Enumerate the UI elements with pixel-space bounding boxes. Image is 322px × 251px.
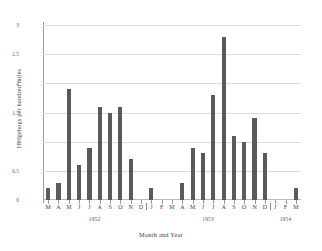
- bar-column[interactable]: [126, 25, 136, 200]
- bar[interactable]: [149, 188, 153, 200]
- year-label: 1954: [280, 216, 292, 222]
- bar-column[interactable]: [53, 25, 63, 200]
- x-tick-label: J: [212, 204, 214, 210]
- x-tick-label: A: [98, 204, 102, 210]
- bar[interactable]: [201, 153, 205, 200]
- x-tick-label: F: [160, 204, 163, 210]
- x-tick-label: S: [108, 204, 111, 210]
- bar[interactable]: [87, 148, 91, 201]
- x-tick-label: M: [293, 204, 298, 210]
- x-tick-label: N: [129, 204, 133, 210]
- x-axis-title: Month and Year: [0, 231, 322, 238]
- bar[interactable]: [222, 37, 226, 200]
- bar-column[interactable]: [291, 25, 301, 200]
- bar-column[interactable]: [167, 25, 177, 200]
- bar-column[interactable]: [84, 25, 94, 200]
- x-tick-label: A: [180, 204, 184, 210]
- bar[interactable]: [129, 159, 133, 200]
- bar-column[interactable]: [177, 25, 187, 200]
- y-axis-title: Hedgehogs per hundred miles: [15, 34, 22, 184]
- x-tick-label: J: [274, 204, 276, 210]
- x-tick-label: M: [169, 204, 174, 210]
- bar-column[interactable]: [146, 25, 156, 200]
- bar-column[interactable]: [208, 25, 218, 200]
- bar-column[interactable]: [239, 25, 249, 200]
- x-tick-label: D: [263, 204, 267, 210]
- year-separator: [146, 203, 147, 210]
- x-tick-label: M: [66, 204, 71, 210]
- x-tick-label: F: [284, 204, 287, 210]
- x-tick-label: S: [232, 204, 235, 210]
- bar-column[interactable]: [74, 25, 84, 200]
- bar-column[interactable]: [187, 25, 197, 200]
- x-tick-label: A: [221, 204, 225, 210]
- bar[interactable]: [252, 118, 256, 200]
- x-tick-label: D: [139, 204, 143, 210]
- x-tick-label: N: [252, 204, 256, 210]
- bar-column[interactable]: [229, 25, 239, 200]
- bar[interactable]: [46, 188, 50, 200]
- bar-column[interactable]: [260, 25, 270, 200]
- bar[interactable]: [211, 95, 215, 200]
- bar[interactable]: [77, 165, 81, 200]
- bar[interactable]: [294, 188, 298, 200]
- bar-column[interactable]: [270, 25, 280, 200]
- x-tick-label: J: [202, 204, 204, 210]
- bar[interactable]: [263, 153, 267, 200]
- bar[interactable]: [191, 148, 195, 201]
- bar-column[interactable]: [249, 25, 259, 200]
- bar[interactable]: [118, 107, 122, 200]
- bar[interactable]: [108, 113, 112, 201]
- bar[interactable]: [242, 142, 246, 200]
- bar-column[interactable]: [157, 25, 167, 200]
- bar-column[interactable]: [43, 25, 53, 200]
- x-tick-label: J: [150, 204, 152, 210]
- bar[interactable]: [67, 89, 71, 200]
- bar[interactable]: [56, 183, 60, 201]
- x-tick-label: M: [190, 204, 195, 210]
- bar-column[interactable]: [198, 25, 208, 200]
- bar-column[interactable]: [136, 25, 146, 200]
- hedgehog-bar-chart: Hedgehogs per hundred miles 00.511.522.5…: [0, 0, 322, 251]
- bar-column[interactable]: [218, 25, 228, 200]
- x-tick-label: O: [118, 204, 122, 210]
- bar[interactable]: [232, 136, 236, 200]
- x-tick-label: A: [56, 204, 60, 210]
- year-label: 1953: [202, 216, 214, 222]
- x-tick-label: J: [78, 204, 80, 210]
- bar-column[interactable]: [280, 25, 290, 200]
- year-separator: [270, 203, 271, 210]
- bar-column[interactable]: [105, 25, 115, 200]
- x-tick-label: J: [88, 204, 90, 210]
- y-tick-label: 0: [1, 197, 19, 203]
- bar-column[interactable]: [64, 25, 74, 200]
- bar-series: [43, 25, 301, 200]
- x-tick-label: O: [242, 204, 246, 210]
- year-label: 1952: [89, 216, 101, 222]
- bar-column[interactable]: [115, 25, 125, 200]
- y-tick-label: 3: [1, 22, 19, 28]
- plot-area: [43, 25, 301, 200]
- bar[interactable]: [98, 107, 102, 200]
- x-tick-label: M: [45, 204, 50, 210]
- bar-column[interactable]: [95, 25, 105, 200]
- bar[interactable]: [180, 183, 184, 201]
